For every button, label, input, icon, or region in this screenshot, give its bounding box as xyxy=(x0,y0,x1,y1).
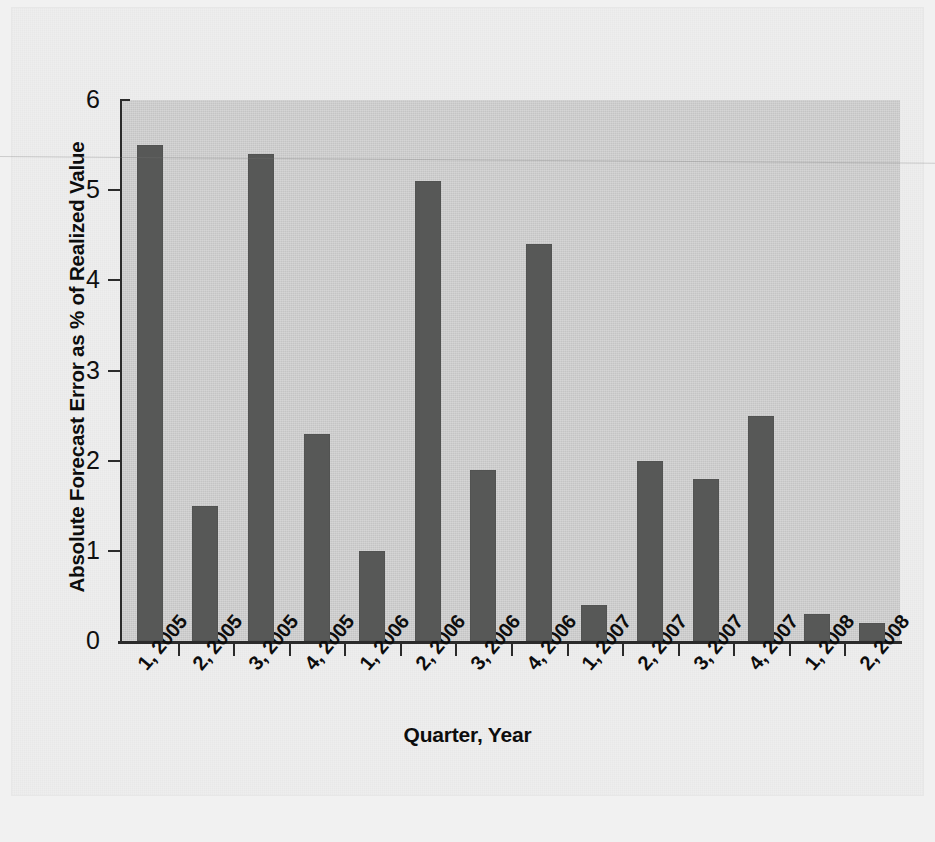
x-axis-tick xyxy=(455,644,457,656)
y-axis-tick-label: 0 xyxy=(54,628,100,653)
bar xyxy=(637,461,663,641)
y-axis-tick xyxy=(108,189,121,191)
x-axis-tick xyxy=(289,644,291,656)
bar xyxy=(304,434,330,641)
bar xyxy=(748,416,774,641)
bar xyxy=(359,551,385,641)
x-axis-tick xyxy=(233,644,235,656)
y-axis-title: Absolute Forecast Error as % of Realized… xyxy=(65,107,89,627)
x-axis-tick xyxy=(789,644,791,656)
bar xyxy=(415,181,441,641)
bar xyxy=(192,506,218,641)
bar xyxy=(470,470,496,641)
x-axis-tick xyxy=(567,644,569,656)
x-axis-tick xyxy=(511,644,513,656)
x-axis-tick xyxy=(178,644,180,656)
x-axis-tick xyxy=(344,644,346,656)
bar xyxy=(137,145,163,641)
scanned-page: 0123456 1, 20052, 20053, 20054, 20051, 2… xyxy=(0,0,935,842)
y-axis-tick xyxy=(108,279,121,281)
bar xyxy=(693,479,719,641)
y-axis-tick xyxy=(108,460,121,462)
y-axis-tick xyxy=(108,550,121,552)
bar xyxy=(526,244,552,641)
bar-chart: 0123456 1, 20052, 20053, 20054, 20051, 2… xyxy=(0,0,935,842)
x-axis-tick xyxy=(622,644,624,656)
x-axis-tick xyxy=(733,644,735,656)
x-axis-tick xyxy=(844,644,846,656)
bars-layer xyxy=(122,100,900,641)
bar xyxy=(804,614,830,641)
y-axis-tick xyxy=(108,370,121,372)
bar xyxy=(248,154,274,641)
bar xyxy=(859,623,885,641)
bar xyxy=(581,605,607,641)
x-axis-tick xyxy=(400,644,402,656)
x-axis-tick xyxy=(678,644,680,656)
x-axis-title: Quarter, Year xyxy=(0,723,935,747)
